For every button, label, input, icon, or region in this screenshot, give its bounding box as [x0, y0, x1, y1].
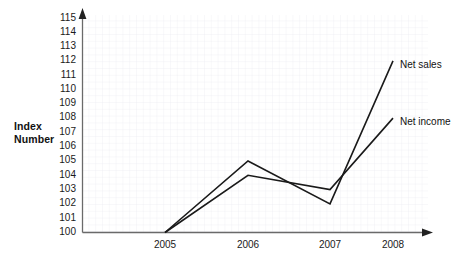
- y-tick-111: 111: [50, 70, 76, 80]
- y-tick-104: 104: [50, 170, 76, 180]
- x-tick-2006: 2006: [223, 240, 273, 250]
- y-tick-113: 113: [50, 41, 76, 51]
- y-tick-112: 112: [50, 55, 76, 65]
- y-tick-105: 105: [50, 155, 76, 165]
- y-axis-title-line2: Number: [14, 133, 54, 146]
- x-tick-2005: 2005: [140, 240, 190, 250]
- y-axis-title: Index Number: [14, 120, 54, 145]
- y-tick-100: 100: [50, 227, 76, 237]
- line-chart: Index Number 115 114 113 112 111 110 109…: [0, 0, 463, 260]
- x-tick-2007: 2007: [305, 240, 355, 250]
- series-label-net-sales: Net sales: [400, 60, 442, 70]
- plot-grid: [83, 15, 428, 232]
- y-tick-109: 109: [50, 98, 76, 108]
- y-tick-108: 108: [50, 112, 76, 122]
- y-axis-title-line1: Index: [14, 120, 54, 133]
- y-tick-103: 103: [50, 184, 76, 194]
- x-tick-2008: 2008: [368, 240, 418, 250]
- y-tick-115: 115: [50, 13, 76, 23]
- y-tick-114: 114: [50, 27, 76, 37]
- y-tick-106: 106: [50, 141, 76, 151]
- y-tick-107: 107: [50, 127, 76, 137]
- y-tick-102: 102: [50, 198, 76, 208]
- y-tick-110: 110: [50, 84, 76, 94]
- y-axis-arrow-icon: [79, 8, 87, 19]
- y-tick-101: 101: [50, 213, 76, 223]
- series-label-net-income: Net income: [400, 117, 451, 127]
